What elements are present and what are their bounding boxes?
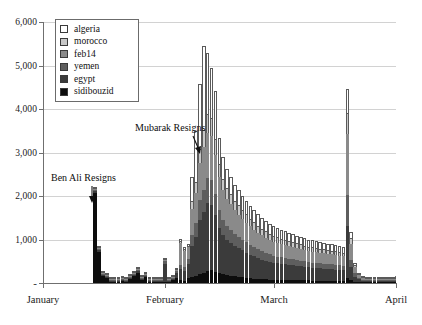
chart-root: 6,0005,0004,0003,0002,0001,000- JanuaryF… [0,0,422,325]
annotation-mubarak-arrow [0,0,422,325]
